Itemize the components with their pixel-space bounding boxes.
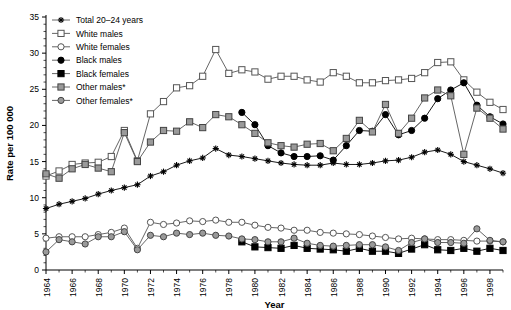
legend-item[interactable]: Total 20–24 years <box>52 15 143 25</box>
marker-open-circle <box>265 224 271 230</box>
x-tick-label: 1970 <box>120 278 130 297</box>
y-tick-label: 0 <box>34 265 39 275</box>
marker-filled-square <box>343 248 349 254</box>
series-black-males <box>239 80 506 164</box>
legend-item[interactable]: Black females <box>52 69 129 79</box>
marker-gray-circle <box>474 226 480 232</box>
marker-gray-circle <box>187 231 193 237</box>
legend-item[interactable]: White males <box>52 29 123 39</box>
marker-gray-square <box>448 93 454 99</box>
marker-gray-square <box>134 158 140 164</box>
x-tick-label: 1994 <box>433 278 443 297</box>
x-tick-label: 1966 <box>68 278 78 297</box>
marker-filled-circle <box>291 153 297 159</box>
marker-open-circle <box>82 234 88 240</box>
marker-filled-square <box>369 248 375 254</box>
marker-star <box>369 160 375 166</box>
marker-filled-circle <box>343 143 349 149</box>
marker-star <box>278 160 284 166</box>
legend: Total 20–24 yearsWhite malesWhite female… <box>52 15 143 105</box>
marker-star <box>487 166 493 172</box>
marker-filled-square <box>435 247 441 253</box>
marker-gray-square <box>187 119 193 125</box>
marker-star <box>43 205 49 211</box>
marker-gray-square <box>317 140 323 146</box>
marker-open-square <box>395 77 401 83</box>
marker-filled-square <box>487 245 493 251</box>
marker-star <box>82 195 88 201</box>
x-tick-label: 1980 <box>250 278 260 297</box>
marker-gray-circle <box>239 236 245 242</box>
legend-item[interactable]: Other females* <box>52 96 133 106</box>
marker-star <box>56 201 62 207</box>
series-white-males <box>43 46 506 179</box>
marker-filled-circle <box>422 115 428 121</box>
marker-star <box>200 155 206 161</box>
x-tick-label: 1968 <box>94 278 104 297</box>
marker-filled-square <box>58 71 64 77</box>
legend-item[interactable]: Other males* <box>52 82 126 92</box>
marker-open-circle <box>474 238 480 244</box>
marker-gray-square <box>160 127 166 133</box>
marker-open-square <box>343 73 349 79</box>
marker-star <box>173 162 179 168</box>
x-tick-label: 1984 <box>303 278 313 297</box>
marker-open-square <box>382 78 388 84</box>
marker-gray-square <box>265 140 271 146</box>
marker-star <box>474 162 480 168</box>
marker-star <box>422 149 428 155</box>
x-tick-label: 1976 <box>198 278 208 297</box>
marker-gray-circle <box>461 240 467 246</box>
marker-gray-square <box>56 175 62 181</box>
marker-gray-circle <box>278 239 284 245</box>
marker-filled-circle <box>409 127 415 133</box>
marker-open-square <box>239 67 245 73</box>
x-tick-label: 1974 <box>172 278 182 297</box>
marker-gray-square <box>239 122 245 128</box>
marker-open-square <box>409 75 415 81</box>
marker-open-square <box>487 99 493 105</box>
legend-item[interactable]: White females <box>52 42 130 52</box>
marker-open-circle <box>160 221 166 227</box>
marker-star <box>69 198 75 204</box>
marker-open-square <box>252 69 258 75</box>
marker-open-square <box>356 80 362 86</box>
marker-gray-circle <box>487 237 493 243</box>
marker-open-square <box>226 70 232 76</box>
marker-star <box>226 152 232 158</box>
marker-open-circle <box>187 218 193 224</box>
marker-filled-circle <box>239 109 245 115</box>
marker-gray-circle <box>448 239 454 245</box>
marker-gray-circle <box>500 239 506 245</box>
marker-star <box>95 191 101 197</box>
y-tick-label: 35 <box>30 12 40 22</box>
legend-label: Other males* <box>76 82 126 92</box>
x-tick-label: 1990 <box>381 278 391 297</box>
marker-gray-circle <box>330 243 336 249</box>
marker-gray-circle <box>95 234 101 240</box>
marker-star <box>160 169 166 175</box>
marker-gray-square <box>200 124 206 130</box>
marker-filled-square <box>265 244 271 250</box>
marker-gray-circle <box>356 242 362 248</box>
marker-gray-square <box>278 143 284 149</box>
legend-item[interactable]: Black males <box>52 55 122 65</box>
marker-open-circle <box>58 44 64 50</box>
marker-open-circle <box>200 218 206 224</box>
marker-open-square <box>213 46 219 52</box>
marker-star <box>409 154 415 160</box>
marker-gray-square <box>252 130 258 136</box>
marker-star <box>461 158 467 164</box>
y-tick-label: 20 <box>30 120 40 130</box>
marker-open-square <box>330 70 336 76</box>
marker-gray-square <box>369 129 375 135</box>
marker-open-square <box>304 77 310 83</box>
marker-gray-square <box>82 161 88 167</box>
marker-gray-circle <box>252 237 258 243</box>
x-tick-label: 1978 <box>224 278 234 297</box>
marker-open-square <box>369 80 375 86</box>
marker-gray-square <box>343 135 349 141</box>
marker-open-square <box>474 89 480 95</box>
marker-gray-circle <box>369 242 375 248</box>
marker-gray-circle <box>343 242 349 248</box>
